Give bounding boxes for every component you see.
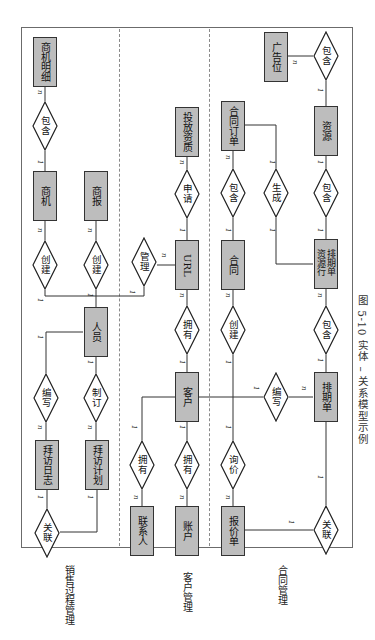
section-label-sales: 销售过程管理: [62, 565, 75, 625]
relationship-label: 拥有: [174, 305, 200, 355]
entity-label: URL: [182, 254, 193, 277]
entity-label: 资源: [321, 121, 332, 141]
cardinality-label: 1: [316, 358, 323, 362]
cardinality-label: n: [86, 228, 93, 233]
entity-resource: 资源: [314, 106, 338, 156]
entity-quote: 报价单: [221, 506, 245, 556]
cardinality-label: 1: [224, 228, 231, 232]
cardinality-label: 1: [287, 520, 294, 524]
relationship-label: 包含: [313, 168, 339, 218]
rel-create-contract: 创建: [220, 305, 246, 355]
entity-visit-log: 拜访日志: [35, 440, 59, 490]
cardinality-label: n: [300, 386, 307, 391]
entity-label: 拜访日志: [42, 445, 53, 485]
relationship-label: 询价: [220, 440, 246, 490]
cardinality-label: n: [36, 90, 43, 95]
cardinality-label: 1: [86, 360, 93, 364]
relationship-label: 拥有: [174, 440, 200, 490]
entity-contract: 合同: [221, 240, 245, 290]
entity-label: 人员: [91, 322, 102, 342]
section-label-contract: 合同管理: [275, 565, 288, 605]
cardinality-label: 1: [36, 160, 43, 164]
entity-schedule: 排期单: [314, 372, 338, 422]
cardinality-label: n: [291, 60, 298, 65]
relationship-label: 编写: [263, 372, 289, 422]
entity-biz-report: 商报: [84, 171, 108, 221]
cardinality-label: n: [132, 495, 139, 500]
entity-label: 商机明细: [40, 42, 51, 82]
rel-create-report: 创建: [83, 240, 109, 290]
entity-biz-opportunity: 商机: [33, 171, 57, 221]
entity-ad-qualification: 投放资质: [175, 107, 199, 157]
cardinality-label: 1: [268, 160, 275, 164]
relationship-label: 包含: [313, 31, 339, 81]
rel-inquire: 询价: [220, 440, 246, 490]
cardinality-label: 1: [36, 298, 43, 302]
rel-manage: 管理: [131, 237, 157, 287]
rel-make-plan: 制订: [83, 373, 109, 423]
entity-label: 联系人: [137, 516, 148, 546]
rel-contains-slot: 包含: [313, 31, 339, 81]
rel-associate-quote: 关联: [313, 505, 339, 555]
cardinality-label: n: [36, 228, 43, 233]
entity-account: 账户: [175, 506, 199, 556]
er-diagram: 商机明细 商机 商报 人员 拜访日志 拜访计划 投放资质 URL 客户 联系人 …: [0, 0, 375, 640]
relationship-label: 管理: [131, 237, 157, 287]
cardinality-label: 1: [130, 425, 137, 429]
rel-own-account: 拥有: [174, 440, 200, 490]
entity-url: URL: [175, 240, 199, 290]
rel-own-url: 拥有: [174, 305, 200, 355]
relationship-label: 关联: [313, 505, 339, 555]
cardinality-label: 1: [252, 386, 259, 390]
rel-contains-schedule-line: 包含: [313, 305, 339, 355]
entity-label: 拜访计划: [92, 445, 103, 485]
rel-generate: 生成: [263, 168, 289, 218]
relationship-label: 生成: [263, 168, 289, 218]
relationship-label: 创建: [83, 240, 109, 290]
cardinality-label: n: [178, 495, 185, 500]
cardinality-label: 1: [178, 228, 185, 232]
entity-label: 商机: [40, 186, 51, 206]
entity-staff: 人员: [84, 307, 108, 357]
rel-create-opportunity: 创建: [32, 240, 58, 290]
cardinality-label: 1: [316, 475, 323, 479]
entity-label: 合同订单: [228, 106, 239, 146]
entity-label: 排期单资源行: [316, 249, 336, 279]
entity-schedule-resource-line: 排期单资源行: [314, 239, 338, 289]
cardinality-label: 1: [178, 425, 185, 429]
cardinality-label: 1: [36, 335, 43, 339]
cardinality-label: 1: [316, 228, 323, 232]
cardinality-label: n: [86, 425, 93, 430]
relationship-label: 制订: [83, 373, 109, 423]
cardinality-label: 1: [178, 360, 185, 364]
relationship-label: 创建: [32, 240, 58, 290]
rel-own-contact: 拥有: [129, 440, 155, 490]
relationship-label: 包含: [32, 101, 58, 151]
figure-caption: 图 5-10 实体 – 关系模型示例: [355, 295, 370, 445]
cardinality-label: 1: [224, 425, 231, 429]
entity-biz-detail: 商机明细: [33, 37, 57, 87]
cardinality-label: 1: [86, 293, 93, 297]
rel-contains-resource: 包含: [313, 168, 339, 218]
cardinality-label: 1: [268, 228, 275, 232]
cardinality-label: n: [160, 253, 167, 258]
section-label-customer: 客户管理: [180, 572, 193, 612]
rel-write-log: 编写: [33, 373, 59, 423]
entity-label: 客户: [182, 387, 193, 407]
entity-label: 广告位: [271, 42, 282, 72]
cardinality-label: 1: [316, 88, 323, 92]
entity-visit-plan: 拜访计划: [85, 440, 109, 490]
entity-label: 报价单: [228, 516, 239, 546]
rel-contains-detail: 包含: [32, 101, 58, 151]
entity-label: 合同: [228, 255, 239, 275]
entity-label: 商报: [91, 186, 102, 206]
rel-write-schedule: 编写: [263, 372, 289, 422]
relationship-label: 包含: [220, 168, 246, 218]
entity-label: 账户: [182, 521, 193, 541]
relationship-label: 编写: [33, 373, 59, 423]
entity-label: 投放资质: [182, 112, 193, 152]
entity-contract-order: 合同订单: [221, 101, 245, 151]
cardinality-label: n: [178, 160, 185, 165]
relationship-label: 包含: [313, 305, 339, 355]
relationship-label: 申请: [174, 169, 200, 219]
